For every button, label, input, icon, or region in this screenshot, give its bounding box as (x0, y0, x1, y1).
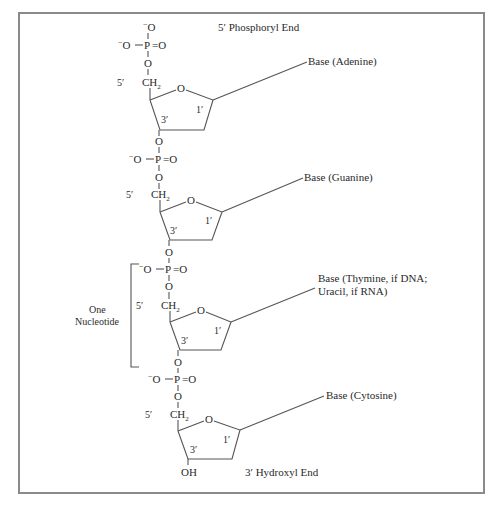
terminal-oxygen-top: −O (143, 20, 156, 33)
one-nucleotide-label-line1: One (89, 304, 106, 315)
svg-text:−O: −O (129, 152, 142, 165)
svg-text:3′: 3′ (161, 114, 168, 125)
svg-text:O: O (165, 280, 173, 292)
svg-text:5′: 5′ (136, 300, 143, 311)
phosphodiester-1-2: −O P =O O (129, 152, 177, 189)
svg-text:3′: 3′ (190, 444, 197, 455)
svg-text:O: O (205, 413, 213, 425)
base-bond-1 (213, 62, 307, 100)
svg-text:1′: 1′ (214, 325, 221, 336)
svg-text:CH2: CH2 (142, 76, 161, 91)
svg-text:P: P (155, 153, 161, 165)
svg-text:P: P (174, 373, 180, 385)
hydroxyl-group: OH (181, 466, 197, 478)
five-prime-phosphate: −O −O P =O O 5′ Phosphoryl End (118, 20, 300, 75)
svg-text:P: P (144, 39, 150, 51)
svg-text:−O: −O (139, 262, 152, 275)
svg-text:=O: =O (182, 373, 196, 385)
svg-text:=O: =O (152, 39, 166, 51)
svg-text:1′: 1′ (196, 104, 203, 115)
dna-strand-diagram: −O −O P =O O 5′ Phosphoryl End 5′ CH2 O … (0, 0, 500, 506)
svg-text:O: O (155, 171, 163, 183)
svg-text:CH2: CH2 (151, 188, 170, 203)
svg-text:CH2: CH2 (161, 299, 180, 314)
svg-text:O: O (174, 356, 182, 368)
three-prime-end-label: 3′ Hydroxyl End (245, 466, 319, 478)
nucleotide-2: 5′ CH2 O 1′ 3′ Base (Guanine) O (126, 171, 373, 263)
svg-text:=O: =O (173, 263, 187, 275)
nucleotide-1: 5′ CH2 O 1′ 3′ Base (Adenine) O (117, 55, 377, 153)
svg-text:O: O (174, 390, 182, 402)
phosphodiester-2-3: −O P =O O (139, 262, 187, 299)
base-label-1: Base (Adenine) (308, 55, 377, 68)
one-nucleotide-bracket: One Nucleotide (75, 264, 139, 367)
svg-text:O: O (177, 82, 185, 94)
svg-text:5′: 5′ (117, 77, 124, 88)
svg-text:=O: =O (163, 153, 177, 165)
svg-text:5′: 5′ (126, 189, 133, 200)
svg-text:O: O (155, 135, 163, 147)
base-bond-4 (240, 396, 324, 430)
svg-text:1′: 1′ (223, 434, 230, 445)
svg-text:O: O (165, 246, 173, 258)
one-nucleotide-label-line2: Nucleotide (75, 316, 119, 327)
base-label-2: Base (Guanine) (304, 171, 373, 184)
phosphate-group-1: −O (118, 38, 131, 51)
nucleotide-4: 5′ CH2 O 1′ 3′ Base (Cytosine) OH 3′ Hyd… (145, 389, 397, 478)
svg-text:3′: 3′ (181, 335, 188, 346)
bracket-line (131, 264, 139, 367)
svg-text:O: O (197, 304, 205, 316)
nucleotide-3: 5′ CH2 O 1′ 3′ Base (Thymine, if DNA; Ur… (136, 272, 427, 373)
svg-text:CH2: CH2 (170, 408, 189, 423)
five-prime-end-label: 5′ Phosphoryl End (218, 21, 300, 33)
base-label-3-line2: Uracil, if RNA) (318, 285, 388, 298)
svg-text:5′: 5′ (145, 409, 152, 420)
base-label-3: Base (Thymine, if DNA; (318, 272, 427, 285)
base-label-4: Base (Cytosine) (326, 389, 397, 402)
svg-text:3′: 3′ (170, 225, 177, 236)
svg-text:O: O (187, 194, 195, 206)
svg-text:P: P (165, 263, 171, 275)
phosphodiester-3-4: −O P =O O (148, 372, 196, 408)
svg-text:O: O (144, 57, 152, 69)
base-bond-2 (222, 178, 303, 212)
svg-text:1′: 1′ (205, 215, 212, 226)
svg-text:−O: −O (148, 372, 161, 385)
base-bond-3 (231, 288, 315, 322)
